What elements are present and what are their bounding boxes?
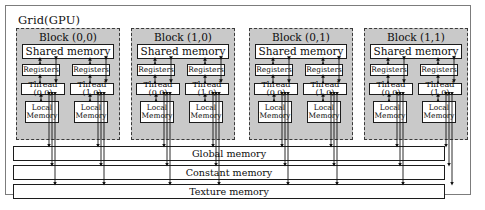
local-memory-line2: Memory: [26, 112, 57, 120]
block-title: Block (1,1): [365, 31, 467, 43]
local-memory-line2: Memory: [374, 112, 405, 120]
shared-memory-box: Shared memory: [22, 44, 114, 59]
thread-box-left: Thread (0,0): [136, 83, 180, 95]
thread-box-right: Thread (1,0): [303, 83, 347, 95]
local-memory-box-left: Local Memory: [25, 101, 59, 123]
thread-box-left: Thread (0,0): [21, 83, 65, 95]
local-memory-box-right: Local Memory: [189, 101, 223, 123]
thread-box-right: Thread (1,0): [418, 83, 462, 95]
local-memory-box-left: Local Memory: [140, 101, 174, 123]
registers-box-right: Registers: [72, 64, 110, 76]
local-memory-box-right: Local Memory: [307, 101, 341, 123]
thread-box-left: Thread (0,0): [369, 83, 413, 95]
thread-box-right: Thread (1,0): [70, 83, 114, 95]
registers-box-left: Registers: [22, 64, 60, 76]
thread-box-left: Thread (0,0): [254, 83, 298, 95]
block-title: Block (0,1): [250, 31, 352, 43]
local-memory-line2: Memory: [423, 112, 454, 120]
local-memory-line2: Memory: [75, 112, 106, 120]
block-title: Block (1,0): [132, 31, 234, 43]
registers-box-right: Registers: [187, 64, 225, 76]
registers-box-left: Registers: [137, 64, 175, 76]
block-0-0: Block (0,0) Shared memory Registers Regi…: [16, 28, 120, 140]
block-1-1: Block (1,1) Shared memory Registers Regi…: [364, 28, 468, 140]
texture-memory-bar: Texture memory: [13, 184, 445, 199]
local-memory-line2: Memory: [141, 112, 172, 120]
local-memory-line2: Memory: [308, 112, 339, 120]
block-1-0: Block (1,0) Shared memory Registers Regi…: [131, 28, 235, 140]
shared-memory-box: Shared memory: [137, 44, 229, 59]
global-memory-bar: Global memory: [13, 146, 445, 161]
registers-box-left: Registers: [255, 64, 293, 76]
local-memory-box-right: Local Memory: [422, 101, 456, 123]
registers-box-left: Registers: [370, 64, 408, 76]
constant-memory-bar: Constant memory: [13, 165, 445, 180]
local-memory-box-left: Local Memory: [258, 101, 292, 123]
registers-box-right: Registers: [305, 64, 343, 76]
block-title: Block (0,0): [17, 31, 119, 43]
diagram-canvas: Grid(GPU) Block (0,0) Shared memory Regi…: [0, 0, 485, 210]
grid-gpu-label: Grid(GPU): [18, 13, 80, 27]
shared-memory-box: Shared memory: [370, 44, 462, 59]
block-0-1: Block (0,1) Shared memory Registers Regi…: [249, 28, 353, 140]
local-memory-box-right: Local Memory: [74, 101, 108, 123]
registers-box-right: Registers: [420, 64, 458, 76]
local-memory-line2: Memory: [190, 112, 221, 120]
local-memory-box-left: Local Memory: [373, 101, 407, 123]
shared-memory-box: Shared memory: [255, 44, 347, 59]
thread-box-right: Thread (1,0): [185, 83, 229, 95]
local-memory-line2: Memory: [259, 112, 290, 120]
